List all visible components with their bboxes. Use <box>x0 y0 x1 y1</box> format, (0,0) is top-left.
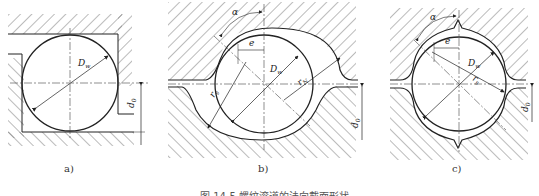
label-alpha-b: α <box>232 7 238 17</box>
raceway-diagram: Dw d0 a) Dw rN rs e α d0 b) <box>0 0 539 196</box>
label-dw-b: Dw <box>269 64 283 75</box>
label-alpha-c: α <box>430 12 436 22</box>
panel-b: Dw rN rs e α d0 b) <box>168 2 362 174</box>
label-rn-b: rN <box>295 73 310 88</box>
label-rs-b: rs <box>207 88 220 100</box>
panel-c: Dw rs e α d0 c) <box>390 8 532 174</box>
hatch-bottom <box>8 132 134 146</box>
panel-label-c: c) <box>452 163 462 174</box>
hatch-top-block <box>8 14 122 34</box>
panel-label-a: a) <box>64 163 74 174</box>
label-e-b: e <box>249 38 254 48</box>
hatch-upper-b <box>168 2 356 80</box>
figure-caption: 图 14-5 螺纹滚道的法向截面形状 <box>200 190 349 196</box>
panel-label-b: b) <box>258 163 268 174</box>
panel-a: Dw d0 a) <box>8 14 150 174</box>
label-e-c: e <box>445 36 450 46</box>
hatch-lower-b <box>168 86 356 158</box>
label-dw-c: Dw <box>467 58 481 69</box>
